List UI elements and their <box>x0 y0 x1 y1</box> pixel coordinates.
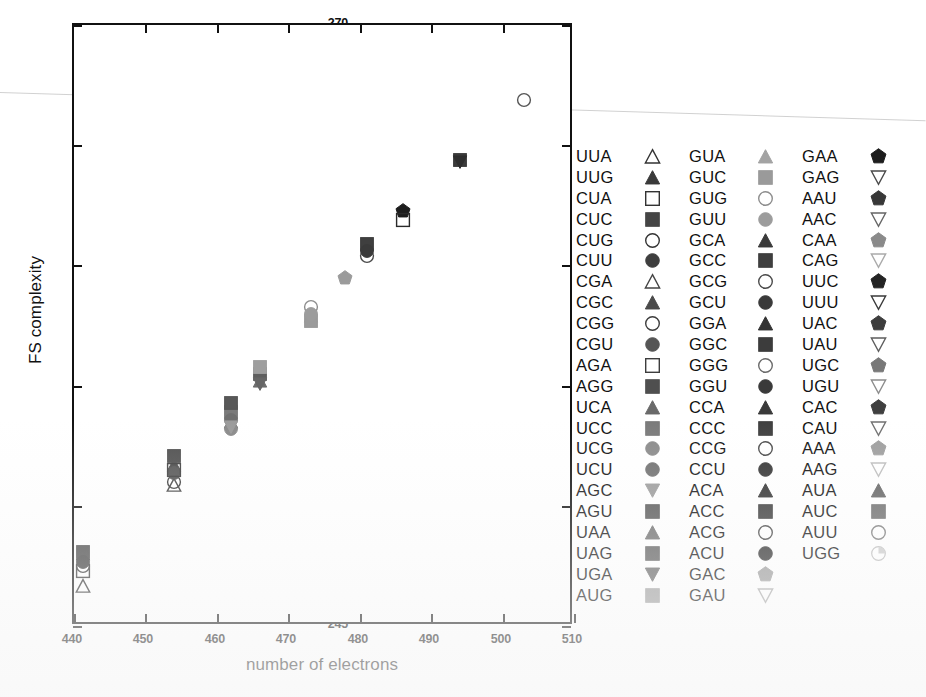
legend-item[interactable]: CUG <box>576 230 690 251</box>
legend-marker-circle-icon <box>632 230 672 250</box>
legend-item[interactable]: CUA <box>576 188 690 209</box>
legend-item[interactable]: AAU <box>802 188 916 209</box>
legend-item-label: CAA <box>802 231 858 250</box>
legend-item-label: CAC <box>802 398 858 417</box>
legend-item[interactable]: UAU <box>802 334 916 355</box>
legend-item[interactable]: GCU <box>689 292 803 313</box>
legend-item[interactable]: GCC <box>689 250 803 271</box>
legend-item[interactable]: UUA <box>576 146 690 167</box>
legend-item[interactable]: GCG <box>689 271 803 292</box>
legend-item-label: UCG <box>576 439 632 458</box>
legend-item[interactable]: GUA <box>689 146 803 167</box>
legend-item[interactable]: UCU <box>576 459 690 480</box>
legend-item-label: GGU <box>689 377 745 396</box>
legend-item[interactable]: UUC <box>802 271 916 292</box>
legend-item[interactable]: AGG <box>576 376 690 397</box>
data-point-agu <box>223 395 239 415</box>
x-axis-title: number of electrons <box>72 655 572 675</box>
legend-item[interactable]: CGU <box>576 334 690 355</box>
legend-item[interactable]: CUC <box>576 209 690 230</box>
legend-item[interactable]: CGG <box>576 313 690 334</box>
legend-item[interactable]: UAG <box>576 543 690 564</box>
legend-item[interactable]: GUU <box>689 209 803 230</box>
y-tick-right <box>562 265 571 267</box>
legend-item[interactable]: UGG <box>802 543 916 564</box>
legend-item[interactable]: AUG <box>576 585 690 606</box>
legend-item[interactable]: CAU <box>802 418 916 439</box>
legend-item[interactable]: AUA <box>802 480 916 501</box>
legend-item[interactable]: GUC <box>689 167 803 188</box>
legend-marker-pentagon-icon <box>858 188 898 208</box>
figure-root: FS complexity 270 265 260 255 250 245 44… <box>0 0 926 697</box>
legend-item[interactable]: CAG <box>802 250 916 271</box>
legend-marker-pentagon-icon <box>858 439 898 459</box>
legend-marker-square-icon <box>632 418 672 438</box>
legend-item[interactable]: GCA <box>689 230 803 251</box>
y-tick-right <box>562 25 571 27</box>
x-tick <box>431 614 433 623</box>
legend-marker-triangle-up-icon <box>632 522 672 542</box>
legend-item[interactable]: CAA <box>802 230 916 251</box>
legend-item[interactable]: ACU <box>689 543 803 564</box>
legend-item[interactable]: AUU <box>802 522 916 543</box>
legend-marker-triangle-up-icon <box>745 230 785 250</box>
legend-item[interactable]: ACG <box>689 522 803 543</box>
x-tick-label: 470 <box>264 632 308 646</box>
legend-item[interactable]: AUC <box>802 501 916 522</box>
legend-item[interactable]: GAA <box>802 146 916 167</box>
legend-item-label: ACC <box>689 502 745 521</box>
legend-item[interactable]: GUG <box>689 188 803 209</box>
legend-item[interactable]: CUU <box>576 250 690 271</box>
legend-item[interactable]: UGC <box>802 355 916 376</box>
legend-item[interactable]: GGA <box>689 313 803 334</box>
legend-item[interactable]: UCC <box>576 418 690 439</box>
legend-marker-circle-icon <box>745 188 785 208</box>
legend-item-label: UUG <box>576 168 632 187</box>
legend-item[interactable]: UAA <box>576 522 690 543</box>
legend-marker-triangle-down-icon <box>858 209 898 229</box>
legend-marker-pentagon-icon <box>858 230 898 250</box>
y-tick-right <box>562 506 571 508</box>
data-point-ugg <box>516 92 532 112</box>
legend-item[interactable]: AGA <box>576 355 690 376</box>
legend-item[interactable]: CGC <box>576 292 690 313</box>
legend-item[interactable]: GGG <box>689 355 803 376</box>
legend-item[interactable]: UUG <box>576 167 690 188</box>
legend-item[interactable]: CAC <box>802 397 916 418</box>
legend-item[interactable]: AGC <box>576 480 690 501</box>
legend-marker-circle-icon <box>632 460 672 480</box>
data-point-cuu <box>75 554 91 574</box>
legend-item[interactable]: UGU <box>802 376 916 397</box>
legend-item[interactable]: AAA <box>802 438 916 459</box>
legend-item[interactable]: UCG <box>576 438 690 459</box>
legend-item[interactable]: CGA <box>576 271 690 292</box>
legend-item[interactable]: AGU <box>576 501 690 522</box>
legend-marker-triangle-up-icon <box>745 314 785 334</box>
legend-marker-triangle-up-icon <box>745 481 785 501</box>
legend-marker-triangle-up-icon <box>632 272 672 292</box>
legend-item[interactable]: CCC <box>689 418 803 439</box>
legend-item[interactable]: CCG <box>689 438 803 459</box>
legend-item-label: AAA <box>802 439 858 458</box>
legend-marker-triangle-up-icon <box>632 146 672 166</box>
legend-item[interactable]: AAG <box>802 459 916 480</box>
legend-marker-circle-icon <box>745 522 785 542</box>
legend-item[interactable]: GGU <box>689 376 803 397</box>
legend-item-label: UGG <box>802 544 858 563</box>
legend-item[interactable]: ACC <box>689 501 803 522</box>
x-tick-label: 500 <box>479 632 523 646</box>
legend-item[interactable]: UGA <box>576 564 690 585</box>
legend-item[interactable]: CCU <box>689 459 803 480</box>
legend-item[interactable]: CCA <box>689 397 803 418</box>
legend-item[interactable]: AAC <box>802 209 916 230</box>
legend-item[interactable]: GAU <box>689 585 803 606</box>
legend-item[interactable]: UCA <box>576 397 690 418</box>
legend-marker-triangle-up-icon <box>632 397 672 417</box>
legend-item[interactable]: GAC <box>689 564 803 585</box>
legend-item[interactable]: ACA <box>689 480 803 501</box>
legend-item[interactable]: UUU <box>802 292 916 313</box>
legend-item[interactable]: GGC <box>689 334 803 355</box>
x-tick-top <box>288 24 290 33</box>
legend-item[interactable]: UAC <box>802 313 916 334</box>
legend-item[interactable]: GAG <box>802 167 916 188</box>
